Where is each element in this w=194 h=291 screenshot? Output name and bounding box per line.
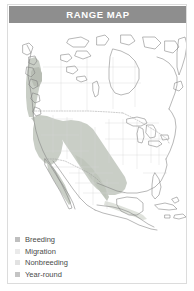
lake-great-bear [61,54,72,62]
legend-item-nonbreeding: Nonbreeding [15,257,187,269]
coast-arctic-island-4 [143,37,161,49]
coast-arctic-island-5 [165,41,179,53]
island-bahamas [172,197,179,203]
island-jamaica [165,215,170,218]
legend-label-year-round: Year-round [25,271,62,279]
map-legend: Breeding Migration Nonbreeding Year-roun… [9,232,187,283]
coast-arctic-island-1 [67,37,89,47]
coast-florida [152,173,161,199]
coast-arctic-island-2 [97,35,109,45]
range-map-header: RANGE MAP [9,6,187,23]
legend-item-year-round: Year-round [15,269,187,281]
legend-item-migration: Migration [15,246,187,258]
coast-arctic-island-6 [75,51,91,59]
lake-winnipeg [93,81,99,97]
lake-michigan [137,127,144,143]
lake-athabasca [77,76,87,82]
coast-newfoundland [174,81,183,91]
range-region-pacific-coast [26,57,41,117]
lake-ontario [161,135,169,140]
coast-hudson-bay [109,49,139,95]
island-cuba [155,203,177,210]
legend-label-migration: Migration [25,248,56,256]
legend-swatch-migration [15,249,20,254]
coast-canada-east [157,57,177,109]
legend-item-breeding: Breeding [15,234,187,246]
north-america-map-svg [9,23,187,235]
legend-label-nonbreeding: Nonbreeding [25,259,68,267]
legend-swatch-year-round [15,272,20,277]
legend-swatch-nonbreeding [15,260,20,265]
island-hispaniola [174,214,186,219]
range-shading-layer [26,57,147,220]
coast-us-east [166,109,176,159]
legend-swatch-breeding [15,237,20,242]
coast-arctic-island-3 [121,35,135,45]
page-title: RANGE MAP [66,10,129,20]
border-us-canada-49th [33,111,123,113]
border-us-canada-east [123,113,169,143]
legend-label-breeding: Breeding [25,236,55,244]
range-map-card: RANGE MAP [7,4,187,284]
coast-greenland [177,37,187,75]
coast-alaska-panhandle [23,43,33,55]
map-canvas [9,23,187,235]
